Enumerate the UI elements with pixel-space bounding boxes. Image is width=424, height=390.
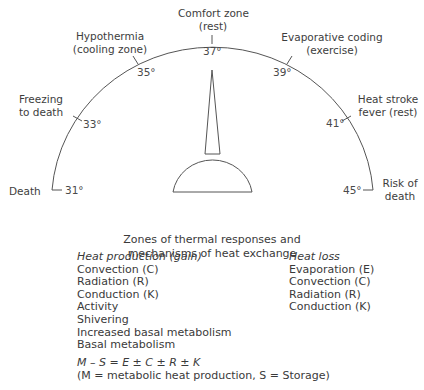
list-item: Shivering bbox=[77, 314, 232, 327]
zone-heatstroke: Heat stroke fever (rest) bbox=[355, 93, 421, 119]
tick-label-41: 41° bbox=[326, 117, 345, 129]
zone-comfort: Comfort zone (rest) bbox=[178, 7, 248, 33]
zone-death-line1: Death bbox=[9, 185, 41, 198]
tick-33 bbox=[73, 116, 82, 121]
gauge-hub bbox=[173, 160, 252, 192]
zone-comfort-line2: (rest) bbox=[178, 20, 248, 33]
zone-evaporative-line1: Evaporative coding bbox=[277, 31, 387, 44]
tick-label-45: 45° bbox=[343, 184, 362, 196]
zone-risk: Risk of death bbox=[378, 177, 422, 203]
zone-evaporative-line2: (exercise) bbox=[277, 44, 387, 57]
zone-freezing-line2: to death bbox=[14, 106, 68, 119]
list-item: Conduction (K) bbox=[289, 301, 374, 314]
list-item: Radiation (R) bbox=[77, 276, 232, 289]
heat-loss-list: Heat loss Evaporation (E) Convection (C)… bbox=[289, 251, 374, 314]
tick-label-37: 37° bbox=[203, 45, 222, 57]
tick-39 bbox=[287, 56, 292, 64]
list-item: Convection (C) bbox=[289, 276, 374, 289]
zone-evaporative: Evaporative coding (exercise) bbox=[277, 31, 387, 57]
heat-balance-equation: M – S = E ± C ± R ± K (M = metabolic hea… bbox=[77, 356, 330, 382]
heat-production-list: Heat production (gain) Convection (C) Ra… bbox=[77, 251, 232, 352]
zone-risk-line2: death bbox=[378, 190, 422, 203]
list-item: Basal metabolism bbox=[77, 339, 232, 352]
zone-comfort-line1: Comfort zone bbox=[178, 7, 248, 20]
zone-heatstroke-line1: Heat stroke bbox=[355, 93, 421, 106]
zone-death: Death bbox=[9, 185, 41, 198]
zone-hypothermia: Hypothermia (cooling zone) bbox=[70, 30, 150, 56]
zone-risk-line1: Risk of bbox=[378, 177, 422, 190]
equation-formula: M – S = E ± C ± R ± K bbox=[77, 356, 330, 369]
tick-label-35: 35° bbox=[137, 66, 156, 78]
zone-freezing: Freezing to death bbox=[14, 93, 68, 119]
caption-line1: Zones of thermal responses and bbox=[110, 233, 314, 247]
tick-label-39: 39° bbox=[273, 66, 292, 78]
heat-production-heading: Heat production (gain) bbox=[77, 251, 232, 264]
tick-label-33: 33° bbox=[83, 118, 102, 130]
zone-heatstroke-line2: fever (rest) bbox=[355, 106, 421, 119]
zone-hypothermia-line1: Hypothermia bbox=[70, 30, 150, 43]
zone-freezing-line1: Freezing bbox=[14, 93, 68, 106]
gauge-needle bbox=[205, 70, 220, 154]
zone-hypothermia-line2: (cooling zone) bbox=[70, 43, 150, 56]
tick-label-31: 31° bbox=[65, 184, 84, 196]
heat-loss-heading: Heat loss bbox=[289, 251, 374, 264]
tick-35 bbox=[133, 56, 138, 64]
equation-legend: (M = metabolic heat production, S = Stor… bbox=[77, 369, 330, 382]
